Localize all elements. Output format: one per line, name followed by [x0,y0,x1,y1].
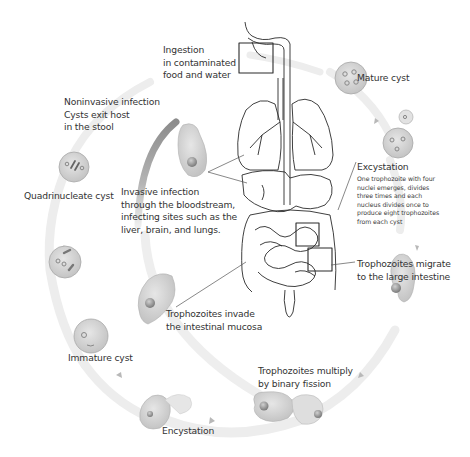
invasive-line-1: through the bloodstream, [121,199,237,212]
quadrinucleate-cyst-cell [59,152,89,182]
invade-mucosa-line-2: the intestinal mucosa [166,321,262,334]
anatomy-outline [238,22,336,317]
excystation-line-5: produce eight trophozoites [357,209,439,218]
migrate-line-2: to the large intestine [357,271,451,284]
label-invade-mucosa: Trophozoites invade the intestinal mucos… [166,308,262,333]
quadrinucleate-cyst-text: Quadrinucleate cyst [24,190,114,201]
label-noninvasive: Noninvasive infection Cysts exit host in… [64,96,160,134]
multiply-line-2: by binary fission [258,378,353,391]
excystation-line-4: nucleus divides once to [357,201,439,210]
label-immature-cyst: Immature cyst [68,352,133,365]
label-multiply: Trophozoites multiply by binary fission [258,365,353,390]
excystation-line-3: three times and each [357,192,439,201]
label-migrate: Trophozoites migrate to the large intest… [357,258,451,283]
ingestion-line-3: food and water [163,69,236,82]
cyst-chromatoid-cell [49,246,81,278]
ingestion-line-2: in contaminated [163,57,236,70]
mature-cyst-text: Mature cyst [357,72,409,83]
excystation-cell [383,110,413,158]
label-mature-cyst: Mature cyst [357,72,409,85]
noninvasive-title: Noninvasive infection [64,96,160,109]
excystation-line-2: nuclei emerges, divides [357,184,439,193]
encystation-text: Encystation [162,425,214,436]
label-quadrinucleate-cyst: Quadrinucleate cyst [24,190,114,203]
label-excystation: Excystation [357,161,409,174]
life-cycle-diagram: Ingestion in contaminated food and water… [0,0,470,457]
intestine-highlight-box-2 [308,248,332,271]
label-excystation-desc: One trophozoite with four nuclei emerges… [357,175,439,227]
immature-cyst-text: Immature cyst [68,352,133,363]
ingestion-line-1: Ingestion [163,44,236,57]
label-ingestion: Ingestion in contaminated food and water [163,44,236,82]
excystation-line-6: from each cyst [357,218,439,227]
excystation-title: Excystation [357,161,409,174]
migrate-line-1: Trophozoites migrate [357,258,451,271]
invasive-title: Invasive infection [121,186,237,199]
excystation-line-1: One trophozoite with four [357,175,439,184]
intestine-highlight-box-1 [296,223,319,246]
noninvasive-line-1: Cysts exit host [64,109,160,122]
multiply-line-1: Trophozoites multiply [258,365,353,378]
trophozoite-invasive [178,124,207,177]
invade-mucosa-line-1: Trophozoites invade [166,308,262,321]
label-encystation: Encystation [162,425,214,438]
immature-cyst-cell [74,319,108,353]
invasive-line-3: liver, brain, and lungs. [121,224,237,237]
invasive-line-2: infecting sites such as the [121,211,237,224]
noninvasive-line-2: in the stool [64,121,160,134]
label-invasive: Invasive infection through the bloodstre… [121,186,237,236]
